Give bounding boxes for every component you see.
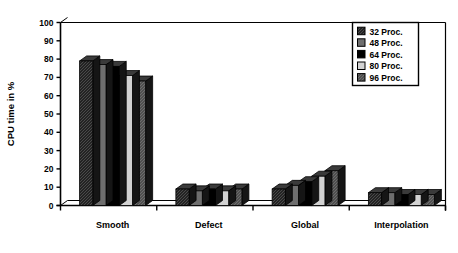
- legend-label: 96 Proc.: [370, 73, 403, 83]
- legend-swatch: [358, 74, 366, 82]
- bar: [272, 184, 292, 205]
- y-tick-label: 90: [44, 36, 54, 46]
- bar: [80, 56, 100, 206]
- y-tick-label: 80: [44, 54, 54, 64]
- legend: 32 Proc.48 Proc.64 Proc.80 Proc.96 Proc.: [353, 23, 419, 86]
- y-tick-label: 70: [44, 72, 54, 82]
- legend-label: 32 Proc.: [370, 27, 403, 37]
- x-tick-label: Smooth: [96, 220, 130, 230]
- y-tick-label: 10: [44, 182, 54, 192]
- legend-item: 32 Proc.: [358, 27, 403, 37]
- legend-label: 64 Proc.: [370, 50, 403, 60]
- bar: [176, 184, 196, 205]
- chart-canvas: 0102030405060708090100CPU time in %Smoot…: [0, 0, 458, 253]
- legend-item: 80 Proc.: [358, 61, 403, 71]
- bar: [368, 188, 388, 206]
- y-axis: 0102030405060708090100CPU time in %: [5, 18, 61, 211]
- y-tick-label: 20: [44, 164, 54, 174]
- bar-group: [176, 184, 249, 205]
- y-axis-title: CPU time in %: [5, 81, 16, 146]
- x-tick-label: Defect: [195, 220, 223, 230]
- y-tick-label: 40: [44, 127, 54, 137]
- legend-swatch: [358, 39, 366, 47]
- x-tick-label: Global: [291, 220, 319, 230]
- bar-group: [80, 56, 153, 206]
- legend-item: 48 Proc.: [358, 38, 403, 48]
- bar-group: [368, 188, 441, 206]
- x-tick-label: Interpolation: [374, 220, 429, 230]
- y-tick-label: 100: [39, 18, 53, 28]
- legend-swatch: [358, 62, 366, 70]
- y-tick-label: 0: [49, 201, 54, 211]
- x-axis: SmoothDefectGlobalInterpolation: [61, 206, 446, 230]
- legend-swatch: [358, 50, 366, 58]
- bar-chart: 0102030405060708090100CPU time in %Smoot…: [0, 0, 458, 253]
- legend-item: 96 Proc.: [358, 73, 403, 83]
- legend-label: 48 Proc.: [370, 38, 403, 48]
- y-tick-label: 60: [44, 91, 54, 101]
- legend-label: 80 Proc.: [370, 61, 403, 71]
- legend-swatch: [358, 27, 366, 35]
- y-tick-label: 50: [44, 109, 54, 119]
- bar-group: [272, 166, 345, 206]
- legend-item: 64 Proc.: [358, 50, 403, 60]
- y-tick-label: 30: [44, 146, 54, 156]
